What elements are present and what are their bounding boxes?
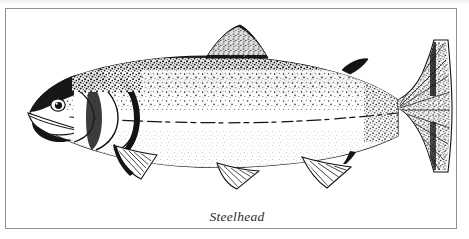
fish-illustration [12, 18, 462, 198]
figure-root: Steelhead [0, 0, 469, 239]
scan-edge-strip [0, 0, 469, 4]
figure-caption: Steelhead [11, 209, 463, 225]
eye [51, 99, 65, 111]
adipose-fin [342, 59, 368, 74]
plate-frame: Steelhead [5, 8, 457, 229]
steelhead-drawing [12, 18, 462, 198]
caudal-fin [392, 36, 456, 176]
dorsal-fin [202, 22, 274, 62]
